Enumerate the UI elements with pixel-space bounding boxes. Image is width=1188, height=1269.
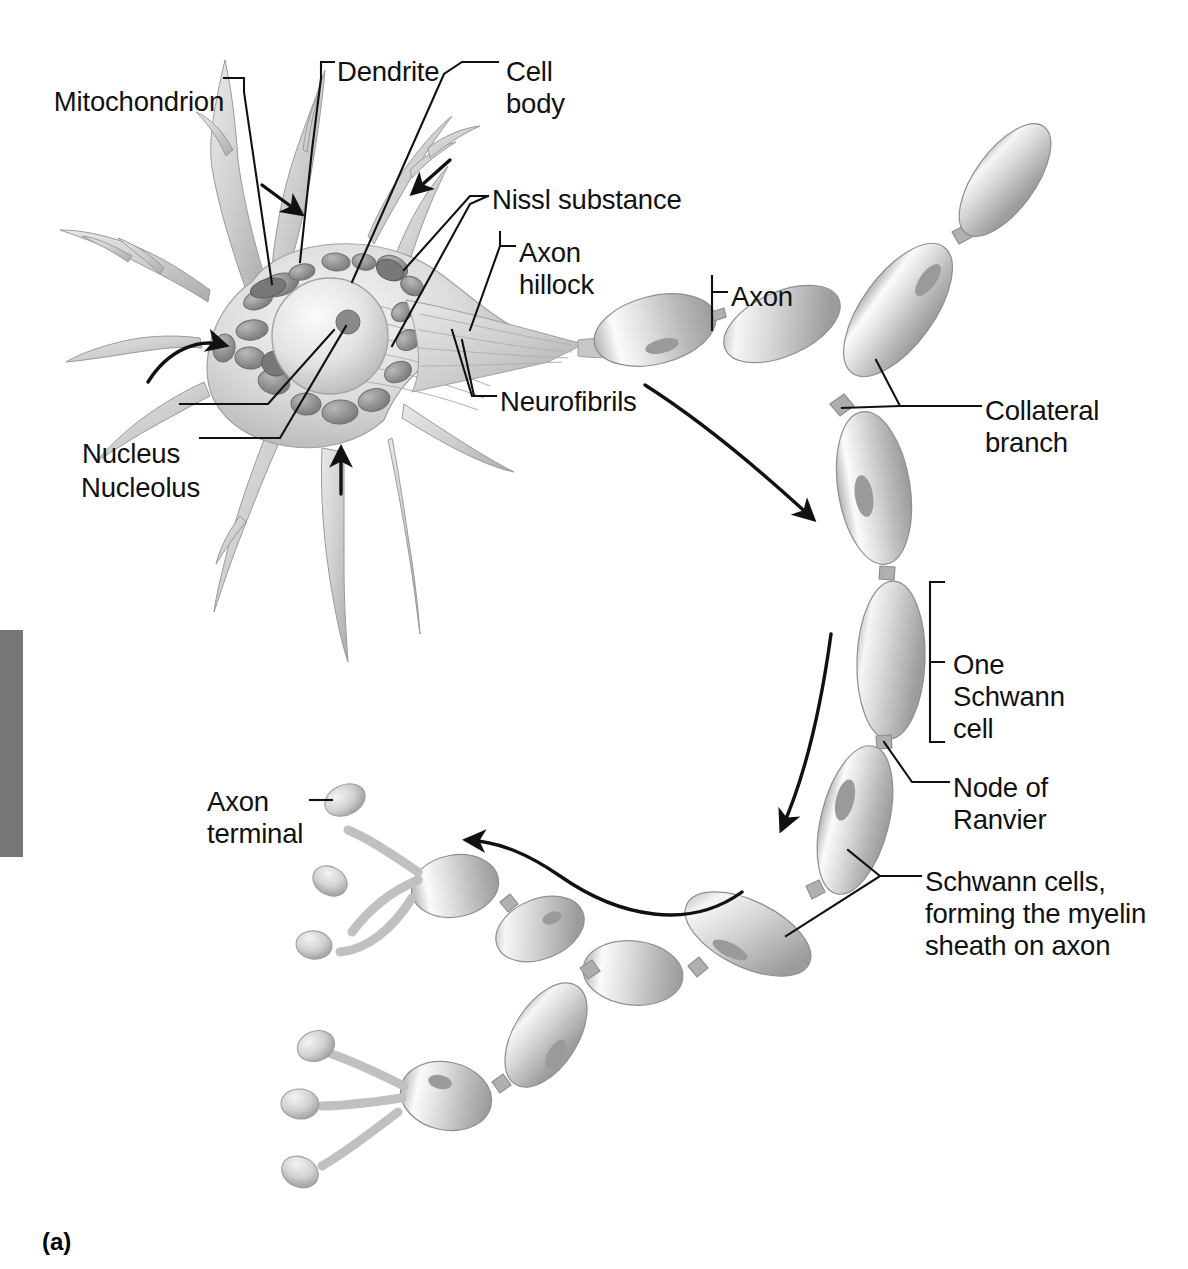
branch-node (830, 394, 854, 416)
label-cell-body: Cellbody (506, 56, 565, 120)
node-of-ranvier-5 (688, 957, 708, 977)
axon-terminal-bouton-l1 (293, 1025, 339, 1066)
arrow-axon-lower-icon (782, 634, 831, 828)
terminal-myelin-upper-2 (406, 848, 503, 924)
terminal-stalk-l1 (326, 1052, 404, 1086)
label-node-of-ranvier: Node ofRanvier (953, 772, 1048, 836)
dendrite-bottom-center (321, 448, 348, 662)
label-mitochondrion: Mitochondrion (0, 86, 224, 118)
myelin-segment-6 (672, 875, 823, 994)
cell-body-group (60, 60, 616, 662)
leader-collateral-2 (842, 406, 981, 408)
leader-node-ranvier (884, 742, 949, 782)
myelin-segment-1 (587, 282, 724, 378)
node-of-ranvier-2 (879, 566, 895, 580)
terminal-myelin-lower-2 (394, 1053, 498, 1139)
node-of-ranvier-1 (712, 308, 726, 321)
dendrite-left-upper (60, 230, 210, 302)
terminal-stalk-l2 (322, 1098, 402, 1106)
label-axon-terminal: Axonterminal (207, 786, 303, 850)
figure-canvas: Mitochondrion Dendrite Cellbody Nissl su… (0, 0, 1188, 1269)
node-of-ranvier-4 (806, 880, 825, 899)
axon-terminal-bouton-u2 (307, 860, 352, 902)
axon-hillock-shape (406, 300, 584, 392)
dendrite-lower-left (214, 430, 282, 612)
label-one-schwann-cell: OneSchwanncell (953, 649, 1065, 745)
collateral-segment-1 (823, 226, 973, 395)
terminal-stalk-l3 (322, 1112, 398, 1166)
axon-terminal-bouton-l3 (276, 1150, 323, 1194)
label-collateral-branch: Collateralbranch (985, 395, 1099, 459)
label-schwann-cells-myelin: Schwann cells,forming the myelinsheath o… (925, 866, 1146, 962)
axon-terminal-bouton-u3 (294, 929, 334, 962)
nucleolus-shape (336, 310, 360, 334)
arrow-axon-upper-icon (645, 385, 812, 518)
label-dendrite: Dendrite (337, 56, 439, 88)
axon-terminal-bouton-l2 (280, 1088, 320, 1121)
myelinated-axon-group (394, 109, 1068, 1139)
myelin-segment-5 (804, 738, 907, 902)
label-axon: Axon (731, 281, 793, 313)
terminal-myelin-upper-1 (486, 884, 594, 974)
terminal-stalk-u1 (348, 830, 418, 872)
dendrite-right-lower (402, 404, 514, 472)
label-neurofibrils: Neurofibrils (500, 386, 637, 418)
bracket-one-schwann-cell (930, 582, 944, 742)
myelin-segment-4 (854, 580, 927, 740)
label-nucleolus: Nucleolus (0, 472, 200, 504)
figure-caption: (a) (42, 1228, 71, 1256)
label-axon-hillock: Axonhillock (519, 237, 594, 301)
label-nissl-substance: Nissl substance (492, 184, 682, 216)
myelin-segment-3 (826, 406, 921, 569)
label-nucleus: Nucleus (0, 438, 180, 470)
dendrite-bottom-right (388, 438, 420, 634)
